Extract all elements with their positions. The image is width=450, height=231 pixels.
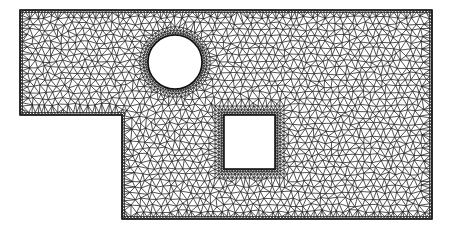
mesh-figure: triangular finite element mesh: [0, 0, 450, 231]
mesh-svg: [0, 0, 450, 231]
square-hole: [224, 115, 275, 169]
circular-hole: [148, 35, 202, 89]
